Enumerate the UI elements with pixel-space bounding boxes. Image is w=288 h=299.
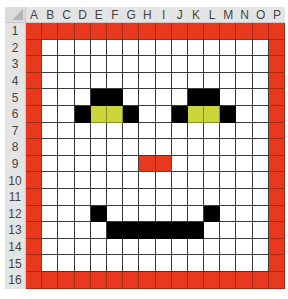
cell-m10[interactable]: [220, 172, 236, 189]
column-header-o[interactable]: O: [253, 7, 269, 23]
cell-g7[interactable]: [123, 123, 139, 140]
cell-m14[interactable]: [220, 239, 236, 256]
cell-d6[interactable]: [75, 106, 91, 123]
cell-i14[interactable]: [156, 239, 172, 256]
cell-m11[interactable]: [220, 189, 236, 206]
cell-o10[interactable]: [253, 172, 269, 189]
cell-i10[interactable]: [156, 172, 172, 189]
column-header-h[interactable]: H: [139, 7, 155, 23]
cell-k8[interactable]: [188, 139, 204, 156]
cell-p6[interactable]: [269, 106, 285, 123]
cell-l8[interactable]: [204, 139, 220, 156]
cell-i7[interactable]: [156, 123, 172, 140]
cell-p1[interactable]: [269, 23, 285, 40]
row-header-7[interactable]: 7: [5, 123, 26, 140]
cell-p15[interactable]: [269, 255, 285, 272]
cell-k9[interactable]: [188, 156, 204, 173]
cell-e11[interactable]: [91, 189, 107, 206]
cell-d16[interactable]: [75, 272, 91, 289]
cell-p12[interactable]: [269, 206, 285, 223]
cell-i6[interactable]: [156, 106, 172, 123]
cell-f4[interactable]: [107, 73, 123, 90]
cell-g15[interactable]: [123, 255, 139, 272]
cell-n2[interactable]: [236, 40, 252, 57]
cell-c4[interactable]: [58, 73, 74, 90]
cell-k5[interactable]: [188, 89, 204, 106]
cell-a6[interactable]: [26, 106, 42, 123]
cell-n13[interactable]: [236, 222, 252, 239]
row-header-6[interactable]: 6: [5, 106, 26, 123]
cell-l10[interactable]: [204, 172, 220, 189]
cell-h15[interactable]: [139, 255, 155, 272]
cell-p3[interactable]: [269, 56, 285, 73]
cell-n9[interactable]: [236, 156, 252, 173]
cell-e12[interactable]: [91, 206, 107, 223]
cell-a4[interactable]: [26, 73, 42, 90]
cell-o3[interactable]: [253, 56, 269, 73]
cell-o13[interactable]: [253, 222, 269, 239]
cell-c9[interactable]: [58, 156, 74, 173]
cell-b2[interactable]: [42, 40, 58, 57]
cell-n1[interactable]: [236, 23, 252, 40]
column-header-e[interactable]: E: [91, 7, 107, 23]
cell-c2[interactable]: [58, 40, 74, 57]
cell-k16[interactable]: [188, 272, 204, 289]
cell-g14[interactable]: [123, 239, 139, 256]
cell-j6[interactable]: [172, 106, 188, 123]
cell-b14[interactable]: [42, 239, 58, 256]
column-header-k[interactable]: K: [188, 7, 204, 23]
cell-j13[interactable]: [172, 222, 188, 239]
cell-o16[interactable]: [253, 272, 269, 289]
cell-h13[interactable]: [139, 222, 155, 239]
cell-d15[interactable]: [75, 255, 91, 272]
cell-k14[interactable]: [188, 239, 204, 256]
cell-i11[interactable]: [156, 189, 172, 206]
cell-g6[interactable]: [123, 106, 139, 123]
cell-e7[interactable]: [91, 123, 107, 140]
cell-e6[interactable]: [91, 106, 107, 123]
cell-c16[interactable]: [58, 272, 74, 289]
cell-c12[interactable]: [58, 206, 74, 223]
cell-d3[interactable]: [75, 56, 91, 73]
cell-n6[interactable]: [236, 106, 252, 123]
cell-i16[interactable]: [156, 272, 172, 289]
cell-p11[interactable]: [269, 189, 285, 206]
cell-f5[interactable]: [107, 89, 123, 106]
cell-m1[interactable]: [220, 23, 236, 40]
cell-n14[interactable]: [236, 239, 252, 256]
cell-l13[interactable]: [204, 222, 220, 239]
cell-h3[interactable]: [139, 56, 155, 73]
row-header-10[interactable]: 10: [5, 172, 26, 189]
cell-p5[interactable]: [269, 89, 285, 106]
cell-a14[interactable]: [26, 239, 42, 256]
cell-i9[interactable]: [156, 156, 172, 173]
cell-p16[interactable]: [269, 272, 285, 289]
cell-p7[interactable]: [269, 123, 285, 140]
cell-h4[interactable]: [139, 73, 155, 90]
cell-e2[interactable]: [91, 40, 107, 57]
cell-h9[interactable]: [139, 156, 155, 173]
cell-l5[interactable]: [204, 89, 220, 106]
cell-n10[interactable]: [236, 172, 252, 189]
row-header-15[interactable]: 15: [5, 255, 26, 272]
cell-o6[interactable]: [253, 106, 269, 123]
cell-a2[interactable]: [26, 40, 42, 57]
cell-g9[interactable]: [123, 156, 139, 173]
row-header-9[interactable]: 9: [5, 156, 26, 173]
cell-l7[interactable]: [204, 123, 220, 140]
cell-f16[interactable]: [107, 272, 123, 289]
cell-j16[interactable]: [172, 272, 188, 289]
cell-o4[interactable]: [253, 73, 269, 90]
row-header-3[interactable]: 3: [5, 56, 26, 73]
cell-b13[interactable]: [42, 222, 58, 239]
cell-o14[interactable]: [253, 239, 269, 256]
row-header-14[interactable]: 14: [5, 239, 26, 256]
cell-l16[interactable]: [204, 272, 220, 289]
cell-l12[interactable]: [204, 206, 220, 223]
cell-f6[interactable]: [107, 106, 123, 123]
cell-h11[interactable]: [139, 189, 155, 206]
cell-d2[interactable]: [75, 40, 91, 57]
cell-l6[interactable]: [204, 106, 220, 123]
cell-b4[interactable]: [42, 73, 58, 90]
cell-b11[interactable]: [42, 189, 58, 206]
